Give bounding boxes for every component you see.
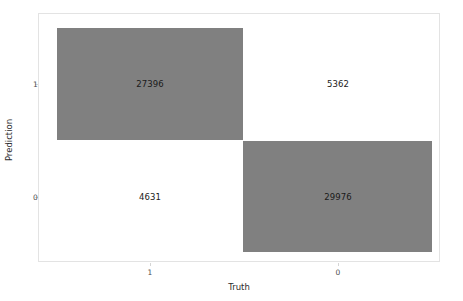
x-axis-title: Truth [228,282,250,292]
y-axis-title: Prediction [4,119,14,161]
matrix-cell-label-truth1-pred1: 27396 [136,79,164,89]
x-axis-tick-mark-0 [338,263,339,266]
x-axis-tick-mark-1 [150,263,151,266]
matrix-cell-label-truth1-pred0: 4631 [139,192,161,202]
confusion-matrix-chart: 27396 5362 4631 29976 1 0 Prediction 1 0… [0,0,463,301]
plot-panel: 27396 5362 4631 29976 [38,13,440,262]
matrix-cell-label-truth0-pred0: 29976 [324,192,352,202]
x-axis-tick-label-0: 0 [336,268,341,277]
x-axis-tick-label-1: 1 [148,268,153,277]
matrix-cell-label-truth0-pred1: 5362 [327,79,349,89]
